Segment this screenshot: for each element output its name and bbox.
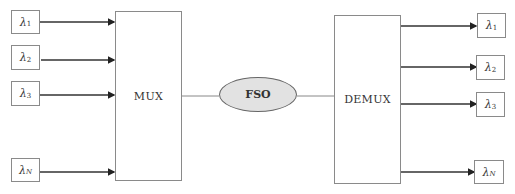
input-lambda-1: λ1 [11,10,40,34]
input-lambda-2-symbol: λ [20,51,27,64]
demux-block: DEMUX [334,15,401,184]
input-lambda-3-sub: 3 [27,92,31,100]
mux-label: MUX [134,90,163,103]
input-lambda-3: λ3 [11,81,40,106]
output-lambda-1-sub: 1 [493,24,497,32]
output-lambda-1: λ1 [477,13,506,38]
output-lambda-1-symbol: λ [486,19,493,32]
output-lambda-n-sub: N [489,170,495,178]
demux-label: DEMUX [344,93,391,106]
input-lambda-2: λ2 [11,45,40,70]
output-lambda-n: λN [474,160,504,184]
output-lambda-3-symbol: λ [485,98,492,111]
output-lambda-2-sub: 2 [492,66,496,74]
input-lambda-1-sub: 1 [27,20,31,28]
input-lambda-3-symbol: λ [20,87,27,100]
input-lambda-n-symbol: λ [19,164,26,177]
fso-label: FSO [245,88,270,101]
fso-channel: FSO [219,77,297,112]
output-lambda-3-sub: 3 [492,103,496,111]
output-lambda-2: λ2 [476,55,505,80]
input-lambda-2-sub: 2 [27,56,31,64]
output-lambda-2-symbol: λ [485,61,492,74]
input-lambda-n: λN [11,158,40,182]
input-lambda-n-sub: N [26,168,32,176]
input-lambda-1-symbol: λ [20,16,27,29]
mux-block: MUX [115,11,182,181]
output-lambda-3: λ3 [476,92,505,117]
